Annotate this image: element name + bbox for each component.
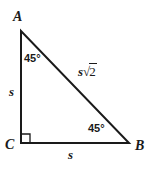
triangle-svg xyxy=(0,0,150,169)
hypotenuse-radicand: 2 xyxy=(89,63,97,79)
triangle-figure: A C B s s s√2 45° 45° xyxy=(0,0,150,169)
side-label-hypotenuse: s√2 xyxy=(78,65,97,78)
side-label-leg-ac: s xyxy=(9,85,14,98)
triangle-outline xyxy=(21,31,129,143)
side-label-leg-cb: s xyxy=(68,148,73,161)
vertex-label-c: C xyxy=(5,138,14,152)
right-angle-marker-icon xyxy=(21,134,30,143)
angle-label-at-b: 45° xyxy=(88,123,105,134)
angle-label-at-a: 45° xyxy=(24,53,41,64)
vertex-label-b: B xyxy=(135,139,144,153)
vertex-label-a: A xyxy=(13,10,22,24)
